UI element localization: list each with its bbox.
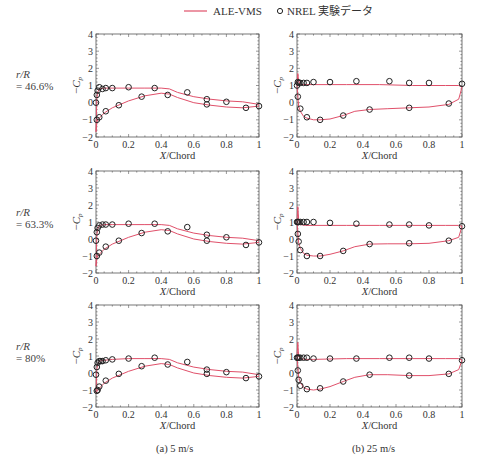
x-tick-label: 0.4 — [357, 139, 370, 150]
nrel-data-point — [184, 224, 190, 230]
y-tick-label: 0 — [289, 368, 294, 379]
y-tick-label: 2 — [289, 63, 294, 74]
row-label-value: = 63.3% — [16, 218, 53, 230]
y-tick-label: 0 — [88, 368, 93, 379]
y-tick-label: −1 — [283, 385, 294, 396]
nrel-data-point — [406, 240, 412, 246]
nrel-data-point — [243, 242, 249, 248]
y-tick-label: 3 — [88, 46, 93, 57]
y-tick-label: 1 — [88, 351, 93, 362]
x-tick-label: 0.4 — [155, 409, 168, 420]
x-tick-label: 0.8 — [423, 139, 436, 150]
y-tick-label: 1 — [289, 351, 294, 362]
x-tick-label: 1 — [460, 275, 465, 286]
panel-2: −2−10123400.20.40.60.81X/Chord−Cp — [271, 29, 465, 162]
nrel-data-point — [184, 359, 190, 365]
nrel-data-point — [387, 222, 393, 228]
y-tick-label: 4 — [88, 300, 93, 311]
nrel-data-point — [387, 78, 393, 84]
y-axis-label: −Cp — [271, 213, 285, 231]
legend-line-label: ALE-VMS — [213, 5, 262, 17]
y-tick-label: −1 — [283, 114, 294, 125]
x-tick-label: 0.2 — [324, 139, 337, 150]
y-axis-label: −Cp — [70, 347, 84, 365]
plot-frame — [297, 305, 462, 407]
ale-vms-curve — [96, 364, 259, 394]
x-tick-label: 0.8 — [220, 275, 233, 286]
x-tick-label: 0.6 — [390, 275, 403, 286]
caption-b: (b) 25 m/s — [352, 443, 395, 455]
nrel-data-point — [304, 253, 310, 259]
y-tick-label: 3 — [289, 183, 294, 194]
y-tick-label: −2 — [82, 402, 93, 413]
x-tick-label: 1 — [460, 139, 465, 150]
y-tick-label: −1 — [82, 251, 93, 262]
nrel-data-point — [406, 80, 412, 86]
y-tick-label: 4 — [88, 166, 93, 177]
y-tick-label: −2 — [283, 402, 294, 413]
y-tick-label: 4 — [289, 166, 294, 177]
x-tick-label: 0 — [295, 275, 300, 286]
row-label-ratio: r/R — [16, 206, 53, 218]
row-label-value: = 46.6% — [16, 80, 53, 92]
nrel-data-point — [126, 221, 132, 227]
y-tick-label: 0 — [289, 97, 294, 108]
ale-vms-curve — [96, 93, 259, 132]
x-tick-label: 0.4 — [357, 275, 370, 286]
x-tick-label: 0.2 — [122, 275, 135, 286]
y-tick-label: 4 — [88, 29, 93, 40]
nrel-data-point — [304, 219, 310, 225]
x-tick-label: 1 — [460, 409, 465, 420]
y-tick-label: 0 — [88, 234, 93, 245]
nrel-data-point — [224, 369, 230, 375]
nrel-data-point — [311, 356, 317, 362]
row-label-ratio: r/R — [16, 340, 45, 352]
nrel-data-point — [204, 371, 210, 377]
x-tick-label: 0 — [295, 409, 300, 420]
nrel-data-point — [152, 355, 158, 361]
y-tick-label: 2 — [88, 200, 93, 211]
y-tick-label: 3 — [289, 317, 294, 328]
y-axis-label: −Cp — [271, 347, 285, 365]
nrel-data-point — [327, 220, 333, 226]
y-tick-label: 2 — [289, 200, 294, 211]
nrel-data-point — [126, 84, 132, 90]
y-tick-label: −1 — [82, 385, 93, 396]
y-axis-label: −Cp — [271, 76, 285, 94]
x-tick-label: 0.8 — [423, 409, 436, 420]
y-tick-label: −2 — [82, 132, 93, 143]
y-tick-label: 4 — [289, 300, 294, 311]
chart-canvas: ALE-VMS NREL 実験データ −2−10123400.20.40.60.… — [0, 0, 479, 464]
y-tick-label: −2 — [82, 268, 93, 279]
x-tick-label: 0.4 — [357, 409, 370, 420]
x-axis-label: X/Chord — [159, 150, 196, 161]
nrel-data-point — [165, 229, 171, 235]
plot-frame — [96, 171, 259, 273]
x-tick-label: 0.6 — [390, 139, 403, 150]
nrel-data-point — [311, 219, 317, 225]
ale-vms-curve — [297, 207, 462, 227]
nrel-data-point — [152, 221, 158, 227]
legend: ALE-VMS NREL 実験データ — [184, 4, 373, 17]
nrel-data-point — [311, 79, 317, 85]
y-tick-label: 2 — [289, 334, 294, 345]
plot-frame — [96, 305, 259, 407]
nrel-data-point — [387, 355, 393, 361]
ale-vms-curve — [297, 222, 462, 256]
nrel-data-point — [224, 99, 230, 105]
x-tick-label: 0 — [295, 139, 300, 150]
nrel-data-point — [354, 78, 360, 84]
y-tick-label: 4 — [289, 29, 294, 40]
nrel-data-point — [426, 80, 432, 86]
panel-5: −2−10123400.20.40.60.81X/Chord−Cp — [70, 300, 262, 432]
x-axis-label: X/Chord — [159, 420, 196, 431]
legend-marker-label: NREL 実験データ — [287, 4, 373, 17]
x-tick-label: 0.4 — [155, 139, 168, 150]
nrel-data-point — [406, 222, 412, 228]
x-tick-label: 0.2 — [324, 409, 337, 420]
y-tick-label: 2 — [88, 63, 93, 74]
x-axis-label: X/Chord — [361, 420, 398, 431]
y-tick-label: 0 — [289, 234, 294, 245]
y-tick-label: 2 — [88, 334, 93, 345]
ale-vms-curve — [297, 86, 462, 120]
